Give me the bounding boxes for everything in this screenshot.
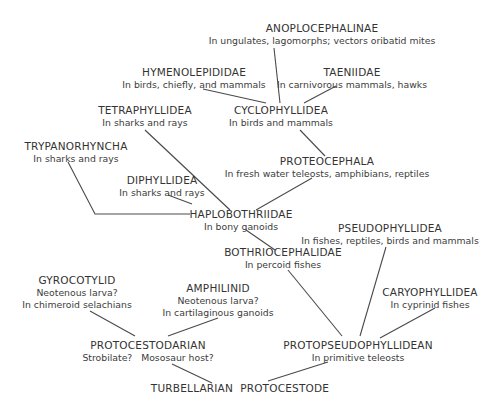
edge-proteocephala-cyclophyllidea <box>300 130 325 156</box>
node-name: TETRAPHYLLIDEA <box>98 104 192 117</box>
node-host: In birds, chiefly, and mammals <box>122 79 265 92</box>
node-gyrocotylid: GYROCOTYLID Neotenous larva? In chimeroi… <box>22 274 132 312</box>
node-name: ANOPLOCEPHALINAE <box>209 22 436 35</box>
node-haplobothriidae: HAPLOBOTHRIIDAE In bony ganoids <box>190 208 293 233</box>
edge-protopseudophyllidean-bothriocephalidae <box>288 270 342 336</box>
node-pseudophyllidea: PSEUDOPHYLLIDEA In fishes, reptiles, bir… <box>301 222 478 247</box>
node-protocestodarian: PROTOCESTODARIAN Strobilate? Mososaur ho… <box>82 339 213 364</box>
node-name: PROTOPSEUDOPHYLLIDEAN <box>283 339 433 352</box>
node-host: In primitive teleosts <box>283 352 433 365</box>
node-larva: Neotenous larva? <box>22 287 132 300</box>
node-name: TAENIIDAE <box>277 66 427 79</box>
node-host: In carnivorous mammals, hawks <box>277 79 427 92</box>
node-trypanorhyncha: TRYPANORHYNCHA In sharks and rays <box>24 140 127 165</box>
node-name: GYROCOTYLID <box>22 274 132 287</box>
edge-root-protocestodarian <box>172 364 212 383</box>
node-host: In birds and mammals <box>229 117 333 130</box>
node-host: In cartilaginous ganoids <box>163 307 274 320</box>
node-name: PSEUDOPHYLLIDEA <box>301 222 478 235</box>
edge-root-protopseudophyllidean <box>268 362 328 381</box>
node-name: CARYOPHYLLIDEA <box>382 286 477 299</box>
node-name: HYMENOLEPIDIDAE <box>122 66 265 79</box>
node-name: PROTEOCEPHALA <box>225 155 430 168</box>
node-host: In cyprinid fishes <box>382 299 477 312</box>
node-name: AMPHILINID <box>163 282 274 295</box>
node-host: In chimeroid selachians <box>22 299 132 312</box>
node-bothriocephalidae: BOTHRIOCEPHALIDAE In percoid fishes <box>224 246 342 271</box>
node-anoplocephalinae: ANOPLOCEPHALINAE In ungulates, lagomorph… <box>209 22 436 47</box>
node-host: In percoid fishes <box>224 259 342 272</box>
edge-haplobothriidae-proteocephala <box>256 178 312 210</box>
node-name: PROTOCESTODARIAN <box>82 339 213 352</box>
node-notes: Strobilate? Mososaur host? <box>82 352 213 365</box>
edge-cyclophyllidea-hymenolepididae <box>203 89 266 103</box>
node-host: In bony ganoids <box>190 221 293 234</box>
node-caryophyllidea: CARYOPHYLLIDEA In cyprinid fishes <box>382 286 477 311</box>
node-name: TRYPANORHYNCHA <box>24 140 127 153</box>
node-amphilinid: AMPHILINID Neotenous larva? In cartilagi… <box>163 282 274 320</box>
node-host: In ungulates, lagomorphs; vectors oribat… <box>209 35 436 48</box>
edge-protocestodarian-amphilinid <box>168 318 218 336</box>
node-protopseudophyllidean: PROTOPSEUDOPHYLLIDEAN In primitive teleo… <box>283 339 433 364</box>
node-tetraphyllidea: TETRAPHYLLIDEA In sharks and rays <box>98 104 192 129</box>
root-name: TURBELLARIAN PROTOCESTODE <box>151 382 329 395</box>
node-diphyllidea: DIPHYLLIDEA In sharks and rays <box>119 174 204 199</box>
node-name: DIPHYLLIDEA <box>119 174 204 187</box>
node-turbellarian-protocestode: TURBELLARIAN PROTOCESTODE <box>151 382 329 395</box>
node-cyclophyllidea: CYCLOPHYLLIDEA In birds and mammals <box>229 104 333 129</box>
node-host: In sharks and rays <box>98 117 192 130</box>
node-proteocephala: PROTEOCEPHALA In fresh water teleosts, a… <box>225 155 430 180</box>
node-hymenolepididae: HYMENOLEPIDIDAE In birds, chiefly, and m… <box>122 66 265 91</box>
node-name: BOTHRIOCEPHALIDAE <box>224 246 342 259</box>
node-taeniidae: TAENIIDAE In carnivorous mammals, hawks <box>277 66 427 91</box>
node-host: In sharks and rays <box>119 187 204 200</box>
node-name: HAPLOBOTHRIIDAE <box>190 208 293 221</box>
node-host: In sharks and rays <box>24 153 127 166</box>
node-larva: Neotenous larva? <box>163 295 274 308</box>
edge-protocestodarian-gyrocotylid <box>90 311 135 336</box>
node-host: In fresh water teleosts, amphibians, rep… <box>225 168 430 181</box>
node-name: CYCLOPHYLLIDEA <box>229 104 333 117</box>
edge-protopseudophyllidean-caryophyllidea <box>380 308 435 338</box>
